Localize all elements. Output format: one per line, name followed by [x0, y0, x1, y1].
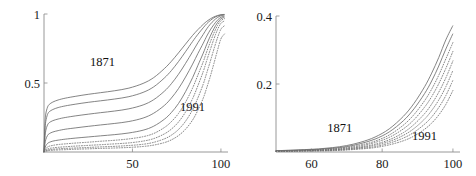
series-annotation-1991: 1991 — [180, 100, 205, 114]
curve-1891 — [44, 15, 224, 152]
chart-canvas-left: 0.515010018711991 — [0, 0, 238, 176]
curve-1991 — [44, 34, 224, 152]
x-tick-label: 50 — [126, 157, 139, 171]
series-annotation-1871: 1871 — [90, 55, 115, 69]
x-tick-label: 60 — [305, 157, 318, 171]
chart-canvas-right: 0.20.4608010018711991 — [238, 0, 476, 176]
y-tick-label: 1 — [34, 8, 40, 22]
series-annotation-1991: 1991 — [412, 129, 437, 143]
figure-two-panel-plot: 0.515010018711991 0.20.4608010018711991 — [0, 0, 476, 176]
x-tick-label: 100 — [444, 157, 463, 171]
y-tick-label: 0.5 — [24, 77, 40, 91]
series-annotation-1871: 1871 — [327, 121, 352, 135]
x-tick-label: 100 — [212, 157, 231, 171]
chart-panel-left: 0.515010018711991 — [0, 0, 238, 176]
x-tick-label: 80 — [376, 157, 389, 171]
y-tick-label: 0.2 — [256, 78, 272, 92]
curve-1981 — [44, 26, 224, 152]
curve-1931 — [44, 16, 224, 152]
curve-1951 — [44, 17, 224, 152]
y-tick-label: 0.4 — [256, 10, 272, 24]
chart-panel-right: 0.20.4608010018711991 — [238, 0, 476, 176]
